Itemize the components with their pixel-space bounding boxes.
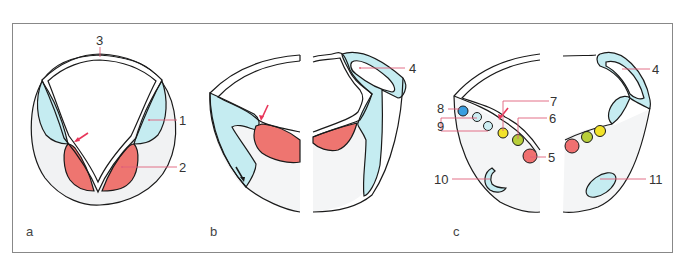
circle-6-green-right xyxy=(582,132,593,143)
callout-5: 5 xyxy=(548,150,555,165)
callout-8: 8 xyxy=(437,101,444,116)
circle-5-red-left xyxy=(523,149,537,163)
callout-3: 3 xyxy=(96,33,103,48)
callout-1: 1 xyxy=(179,113,186,128)
leader-2-dot xyxy=(121,166,123,168)
circle-5-red-right xyxy=(565,139,579,153)
callout-9: 9 xyxy=(437,119,444,134)
panel-label-a: a xyxy=(26,224,34,239)
callout-7: 7 xyxy=(550,94,557,109)
panel-b-callout-4: 4 xyxy=(409,61,416,76)
anatomy-figure: 3 1 2 a 4 b xyxy=(0,0,685,266)
panel-c-callout-4: 4 xyxy=(652,62,659,77)
panel-b-leader-4-dot xyxy=(359,67,361,69)
leader-1-dot xyxy=(148,119,150,121)
circle-9-light-blue-a xyxy=(473,113,482,122)
callout-6: 6 xyxy=(549,111,556,126)
panel-label-c: c xyxy=(453,224,460,239)
panel-label-b: b xyxy=(210,224,217,239)
circle-8-dark-blue xyxy=(458,106,468,116)
callout-2: 2 xyxy=(179,160,186,175)
callout-10: 10 xyxy=(434,172,448,187)
callout-11: 11 xyxy=(649,172,663,187)
circle-7-yellow-right xyxy=(595,126,606,137)
circle-9-light-blue-b xyxy=(484,122,493,131)
